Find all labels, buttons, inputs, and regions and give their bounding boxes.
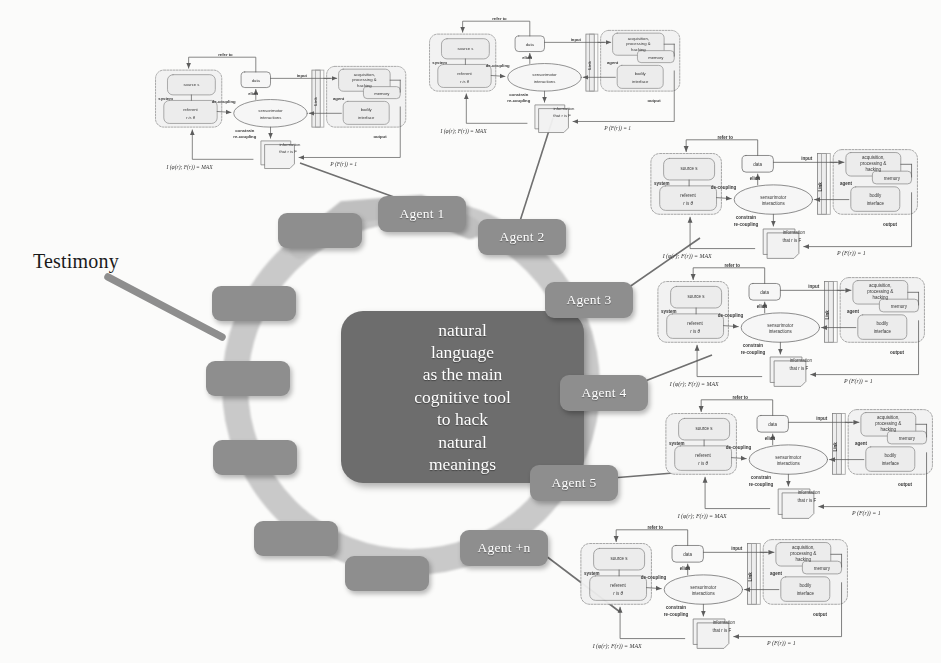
agent-node-unlabeled-2[interactable] (206, 361, 290, 396)
center-line-3: cognitive tool (414, 386, 511, 408)
label-input: input (297, 73, 308, 78)
referent-box (438, 64, 491, 87)
label-information: information (798, 490, 821, 495)
label-elicit: elicit (248, 91, 258, 96)
label-elicit: elicit (765, 436, 776, 441)
label-link: Link (825, 310, 830, 320)
agent-node-unlabeled-3[interactable] (213, 440, 297, 475)
subdiagram-svg: refer to data elicit de-coupling sensori… (645, 130, 924, 262)
label-agent: agent (607, 60, 619, 65)
diagram-canvas: natural language as the main cognitive t… (0, 0, 941, 663)
agent-node-label: Agent 5 (551, 475, 596, 491)
formula-right: P (F(r)) = 1 (329, 161, 357, 168)
agent-node-unlabeled-12[interactable] (278, 213, 362, 248)
label-data: data (252, 78, 261, 83)
agent-node-agent-4[interactable]: Agent 4 (560, 375, 648, 411)
label-system: system (669, 441, 685, 446)
label-memory: memory (899, 436, 916, 441)
label-data: data (753, 162, 762, 167)
label-acquisition-2: processing & (626, 41, 651, 46)
agent-node-unlabeled-4[interactable] (254, 521, 338, 556)
label-that-r-is-f: that r is F (790, 366, 809, 371)
agent-node-label: Agent 2 (499, 229, 544, 245)
label-system: system (654, 181, 670, 186)
label-sensorimotor: sensorimotor (690, 585, 717, 590)
label-bodily: bodily (884, 453, 897, 458)
label-referent-value: r is θ (186, 115, 196, 120)
bodily-interface-box (866, 447, 915, 472)
agent-node-unlabeled-5[interactable] (345, 556, 429, 591)
label-acquisition-1: acquisition, (869, 283, 892, 288)
label-acquisition-1: acquisition, (862, 155, 885, 160)
label-elicit: elicit (757, 304, 768, 309)
label-re-coupling: re-coupling (507, 98, 530, 103)
label-data: data (526, 42, 535, 47)
label-output: output (898, 482, 912, 487)
agent-node-agent-n[interactable]: Agent +n (460, 530, 548, 566)
agent-node-unlabeled-1[interactable] (212, 286, 296, 321)
label-information: information (783, 230, 806, 235)
label-refer-to: refer to (492, 16, 507, 21)
bodily-interface-box (858, 315, 907, 340)
label-that-r-is-f: that r is F (553, 113, 571, 118)
center-line-1: language (414, 341, 511, 363)
bodily-interface-box (617, 65, 663, 88)
referent-box (164, 100, 217, 123)
label-input: input (801, 156, 812, 161)
label-information: information (279, 142, 301, 147)
subdiagram-3: refer to data elicit de-coupling sensori… (645, 130, 924, 262)
label-that-r-is-f: that r is F (783, 238, 802, 243)
label-system: system (584, 571, 600, 576)
label-input: input (816, 416, 827, 421)
label-memory: memory (374, 91, 390, 96)
subdiagram-4: refer to data elicit de-coupling sensori… (652, 258, 931, 390)
label-acquisition-1: acquisition, (628, 36, 649, 41)
label-interactions: interactions (260, 115, 282, 120)
label-system: system (158, 96, 173, 101)
label-acquisition-3: hacking (796, 557, 812, 562)
label-referent-value: r is θ (698, 461, 708, 466)
label-referent-value: r is θ (460, 79, 470, 84)
label-de-coupling: de-coupling (212, 99, 236, 104)
label-elicit: elicit (750, 176, 761, 181)
agent-node-agent-5[interactable]: Agent 5 (530, 465, 618, 501)
label-interactions: interactions (769, 329, 793, 334)
label-output: output (813, 612, 827, 617)
formula-right: P (F(r)) = 1 (836, 250, 866, 257)
label-re-coupling: re-coupling (741, 350, 766, 355)
formula-left: I (φ(r); F(r)) = MAX (592, 643, 642, 650)
agent-node-agent-1[interactable]: Agent 1 (378, 196, 466, 232)
label-acquisition-3: hacking (881, 427, 897, 432)
label-information: information (713, 620, 736, 625)
label-link: Link (833, 442, 838, 452)
label-elicit: elicit (522, 55, 532, 60)
agent-node-agent-3[interactable]: Agent 3 (545, 282, 633, 318)
label-interface: interface (797, 591, 815, 596)
label-data: data (768, 422, 777, 427)
referent-box (675, 446, 732, 471)
testimony-arrow (108, 277, 222, 337)
label-de-coupling: de-coupling (718, 313, 744, 318)
formula-left: I (φ(r); F(r)) = MAX (166, 164, 214, 171)
referent-box (590, 576, 647, 601)
label-acquisition-2: processing & (860, 161, 886, 166)
subdiagram-6: refer to data elicit de-coupling sensori… (575, 520, 854, 652)
subdiagram-svg: refer to data elicit de-coupling sensori… (652, 258, 931, 390)
label-interface: interface (882, 461, 900, 466)
subdiagram-svg: refer to data elicit de-coupling sensori… (150, 48, 412, 172)
label-output: output (890, 350, 904, 355)
label-interface: interface (874, 329, 892, 334)
agent-node-agent-2[interactable]: Agent 2 (478, 219, 566, 255)
center-line-0: natural (414, 319, 511, 341)
label-acquisition-2: processing & (352, 77, 377, 82)
label-data: data (760, 290, 769, 295)
label-acquisition-1: acquisition, (354, 72, 375, 77)
label-elicit: elicit (680, 566, 691, 571)
label-constrain: constrain (743, 343, 764, 348)
label-constrain: constrain (509, 92, 528, 97)
formula-right: P (F(r)) = 1 (843, 378, 873, 385)
subdiagram-2: refer to data elicit de-coupling sensori… (424, 12, 686, 136)
label-constrain: constrain (235, 128, 254, 133)
label-referent: referent (457, 71, 472, 76)
label-interactions: interactions (762, 201, 786, 206)
